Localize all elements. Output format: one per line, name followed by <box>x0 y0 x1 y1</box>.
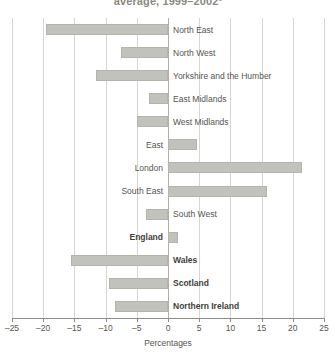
bar-row: North East <box>12 18 324 41</box>
chart-title: average, 1999–2002¹ <box>0 0 336 7</box>
category-label: West Midlands <box>173 113 229 131</box>
bar <box>137 116 168 127</box>
axis-tick <box>12 318 13 322</box>
bar-row: East Midlands <box>12 87 324 110</box>
axis-tick-label: 25 <box>307 323 336 333</box>
bar-row: East <box>12 133 324 156</box>
category-label: South East <box>121 182 163 200</box>
bar <box>71 255 168 266</box>
axis-tick-label: 0 <box>151 323 185 333</box>
category-label: Northern Ireland <box>173 297 239 315</box>
chart-container: average, 1999–2002¹ North EastNorth West… <box>0 0 336 353</box>
category-label: England <box>129 228 163 246</box>
category-label: London <box>135 159 163 177</box>
axis-tick <box>106 318 107 322</box>
bar-row: London <box>12 156 324 179</box>
bar-row: Scotland <box>12 272 324 295</box>
bar-row: Wales <box>12 249 324 272</box>
category-label: East <box>146 136 163 154</box>
axis-tick-label: 20 <box>276 323 310 333</box>
bar <box>46 24 168 35</box>
axis-tick <box>43 318 44 322</box>
bar <box>149 93 168 104</box>
x-axis-title: Percentages <box>0 338 336 348</box>
bar-row: Northern Ireland <box>12 295 324 318</box>
bar <box>168 162 302 173</box>
axis-tick <box>324 318 325 322</box>
bar-series: North EastNorth WestYorkshire and the Hu… <box>12 18 324 318</box>
bar-row: South West <box>12 203 324 226</box>
axis-tick-label: –5 <box>120 323 154 333</box>
axis-tick <box>199 318 200 322</box>
category-label: Yorkshire and the Humber <box>173 67 271 85</box>
bar <box>146 209 168 220</box>
axis-tick-label: –20 <box>26 323 60 333</box>
axis-tick <box>230 318 231 322</box>
category-label: North West <box>173 44 215 62</box>
bar-row: Yorkshire and the Humber <box>12 64 324 87</box>
category-label: Scotland <box>173 274 209 292</box>
bar <box>168 232 178 243</box>
bar-row: West Midlands <box>12 110 324 133</box>
bar <box>96 70 168 81</box>
axis-tick <box>137 318 138 322</box>
plot-area: North EastNorth WestYorkshire and the Hu… <box>12 18 324 318</box>
bar <box>121 47 168 58</box>
axis-tick <box>262 318 263 322</box>
bar <box>168 186 267 197</box>
axis-tick-label: –25 <box>0 323 29 333</box>
axis-tick <box>74 318 75 322</box>
bar-row: North West <box>12 41 324 64</box>
category-label: East Midlands <box>173 90 226 108</box>
bar <box>115 301 168 312</box>
axis-tick-label: –15 <box>57 323 91 333</box>
category-label: South West <box>173 205 217 223</box>
bar <box>109 278 168 289</box>
bar <box>168 139 197 150</box>
gridline <box>324 18 325 318</box>
bar-row: England <box>12 226 324 249</box>
axis-tick-label: 10 <box>213 323 247 333</box>
axis-tick-label: 15 <box>245 323 279 333</box>
bar-row: South East <box>12 180 324 203</box>
axis-tick <box>293 318 294 322</box>
axis-tick-label: –10 <box>89 323 123 333</box>
category-label: Wales <box>173 251 197 269</box>
category-label: North East <box>173 21 213 39</box>
axis-tick-label: 5 <box>182 323 216 333</box>
axis-tick <box>168 318 169 322</box>
